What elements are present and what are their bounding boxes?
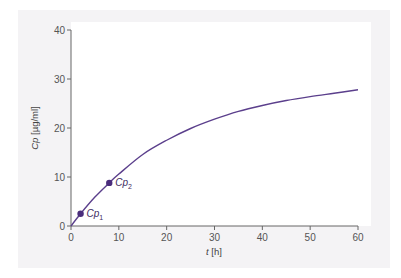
x-tick-label: 60 — [352, 232, 364, 243]
y-tick-label: 40 — [54, 25, 66, 36]
data-point-marker — [77, 211, 83, 217]
y-tick-label: 0 — [59, 221, 65, 232]
x-tick-label: 30 — [209, 232, 221, 243]
plot-area — [71, 22, 371, 226]
data-point-marker — [106, 180, 112, 186]
line-chart: 0102030400102030405060 Cp1Cp2 t [h] Cp [… — [0, 0, 401, 278]
y-tick-label: 10 — [54, 172, 66, 183]
y-axis-title: Cp [µg/ml] — [29, 106, 40, 150]
x-tick-label: 0 — [68, 232, 74, 243]
x-tick-label: 50 — [305, 232, 317, 243]
y-tick-label: 20 — [54, 123, 66, 134]
x-tick-label: 20 — [161, 232, 173, 243]
y-tick-label: 30 — [54, 74, 66, 85]
x-tick-label: 10 — [113, 232, 125, 243]
x-axis-title: t [h] — [206, 246, 222, 257]
x-tick-label: 40 — [257, 232, 269, 243]
